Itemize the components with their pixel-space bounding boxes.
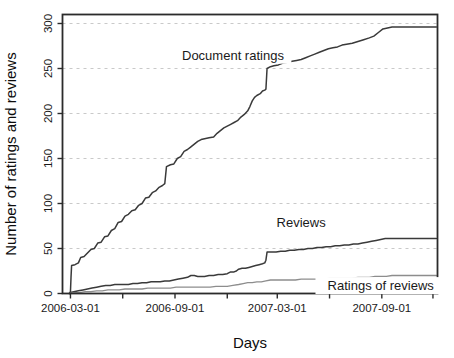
series-line-document-ratings: [69, 27, 436, 293]
x-axis-title: Days: [233, 334, 267, 351]
x-axis-tick-label: 2007-03-01: [248, 302, 307, 314]
y-axis-title: Number of ratings and reviews: [2, 52, 19, 255]
y-axis-tick-label: 0: [42, 290, 54, 296]
y-axis-tick-label: 100: [42, 194, 54, 213]
y-axis-tick-label: 50: [42, 242, 54, 255]
y-axis-tick-label: 250: [42, 59, 54, 78]
y-axis-tick-label: 300: [42, 14, 54, 33]
chart-figure: 0501001502002503002006-03-012006-09-0120…: [0, 0, 454, 358]
series-annotation: Document ratings: [175, 47, 292, 64]
x-axis-tick-label: 2007-09-01: [352, 302, 411, 314]
svg-text:Ratings of reviews: Ratings of reviews: [328, 278, 435, 293]
line-chart-canvas: 0501001502002503002006-03-012006-09-0120…: [0, 0, 454, 358]
x-axis-tick-label: 2006-03-01: [41, 302, 100, 314]
series-annotation: Reviews: [273, 214, 329, 231]
y-axis-tick-label: 200: [42, 104, 54, 123]
y-axis-tick-label: 150: [42, 149, 54, 168]
svg-text:Document ratings: Document ratings: [182, 48, 284, 63]
svg-text:Reviews: Reviews: [277, 215, 327, 230]
series-annotation: Ratings of reviews: [315, 277, 445, 294]
x-axis-tick-label: 2006-09-01: [146, 302, 205, 314]
